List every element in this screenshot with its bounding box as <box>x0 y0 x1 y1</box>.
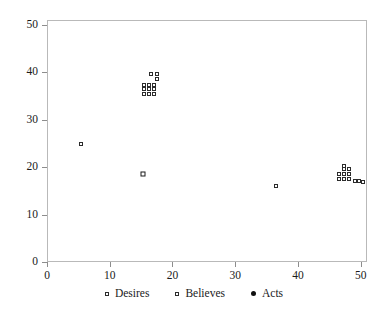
x-axis-tick-label: 10 <box>104 270 116 282</box>
x-axis-tick <box>110 262 111 267</box>
chart-legend: DesiresBelievesActs <box>0 288 388 300</box>
legend-label: Acts <box>262 288 283 300</box>
filled-circle-icon <box>251 291 256 296</box>
x-axis-tick <box>361 262 362 267</box>
legend-item-believes[interactable]: Believes <box>175 288 225 300</box>
x-axis-tick <box>235 262 236 267</box>
x-axis: 01020304050 <box>0 0 388 313</box>
x-axis-tick-label: 30 <box>229 270 241 282</box>
x-axis-tick <box>298 262 299 267</box>
x-axis-tick-label: 40 <box>292 270 304 282</box>
scatter-plot-figure: 01020304050 01020304050 DesiresBelievesA… <box>0 0 388 313</box>
x-axis-tick <box>47 262 48 267</box>
open-square-icon <box>105 292 109 296</box>
x-axis-tick-label: 50 <box>355 270 367 282</box>
legend-label: Desires <box>115 288 150 300</box>
open-square-icon <box>175 292 179 296</box>
legend-label: Believes <box>185 288 225 300</box>
x-axis-tick-label: 20 <box>167 270 179 282</box>
legend-item-desires[interactable]: Desires <box>105 288 150 300</box>
legend-item-acts[interactable]: Acts <box>251 288 283 300</box>
x-axis-tick-label: 0 <box>44 270 50 282</box>
x-axis-tick <box>172 262 173 267</box>
